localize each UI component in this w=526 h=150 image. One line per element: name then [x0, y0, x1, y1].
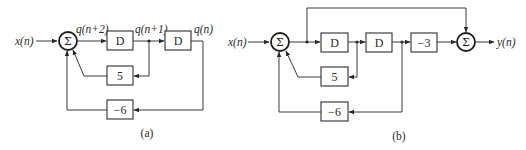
caption-b: (b): [392, 130, 406, 143]
input-label-b: x(n): [227, 36, 247, 49]
delay-block-1-a: D: [107, 31, 133, 50]
svg-text:D: D: [330, 36, 339, 50]
gain-block-5-b: 5: [321, 67, 348, 86]
diagram-a: x(n) Σ q(n+2) D q(n+1) D q(n) 5: [14, 23, 213, 140]
summer-1-b: Σ: [271, 33, 289, 51]
diagram-b: x(n) Σ D D −3 Σ: [227, 8, 516, 143]
delay-block-1-b: D: [321, 33, 348, 52]
wire-gain-m6-to-sum-a: [67, 51, 107, 110]
svg-text:D: D: [174, 34, 183, 48]
svg-text:−6: −6: [114, 103, 127, 117]
output-label-b: y(n): [496, 36, 516, 49]
gain-block-5-a: 5: [107, 66, 133, 85]
sigma-icon: Σ: [462, 36, 470, 49]
gain-block-m3-b: −3: [411, 33, 437, 52]
gain-block-m6-a: −6: [107, 100, 133, 119]
signal-label-q-n1: q(n+1): [135, 23, 168, 36]
summer-a: Σ: [59, 32, 77, 50]
svg-text:−6: −6: [328, 105, 341, 119]
wire-to-gain5-b: [349, 42, 357, 77]
block-diagrams: x(n) Σ q(n+2) D q(n+1) D q(n) 5: [0, 0, 526, 150]
wire-to-gain5-a: [134, 41, 149, 76]
svg-text:5: 5: [332, 70, 338, 84]
svg-text:−3: −3: [418, 36, 431, 50]
svg-text:D: D: [375, 36, 384, 50]
summer-2-b: Σ: [457, 33, 475, 51]
signal-label-q-n2: q(n+2): [76, 23, 109, 36]
wire-gain-m6-to-sum1-b: [279, 52, 321, 112]
gain-block-m6-b: −6: [321, 102, 348, 121]
delay-block-2-a: D: [165, 31, 191, 50]
wire-gain5-to-sum-a: [73, 50, 107, 76]
caption-a: (a): [141, 127, 154, 140]
sigma-icon: Σ: [276, 36, 284, 49]
svg-text:D: D: [116, 34, 125, 48]
delay-block-2-b: D: [366, 33, 392, 52]
input-label-a: x(n): [14, 35, 34, 48]
sigma-icon: Σ: [64, 35, 72, 48]
wire-gain5-to-sum1-b: [286, 51, 321, 77]
svg-text:5: 5: [117, 69, 123, 83]
signal-label-q-n: q(n): [194, 23, 213, 36]
